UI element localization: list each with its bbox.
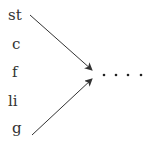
- arrow-g: [32, 79, 92, 135]
- ellipsis-dots: [103, 74, 143, 77]
- diagram-canvas: [0, 0, 152, 150]
- arrow-st: [30, 15, 92, 70]
